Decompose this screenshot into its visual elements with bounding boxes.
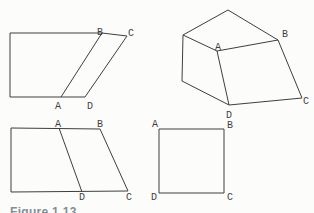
- vertex-label-d: D: [87, 101, 93, 112]
- bottom-left-diagonal-ad: [59, 128, 82, 192]
- vertex-label-b: B: [282, 29, 288, 40]
- top-left-diagonal-ab: [61, 33, 102, 97]
- vertex-label-c: C: [227, 192, 233, 203]
- solid-silhouette: [182, 10, 302, 105]
- top-left-outline: [10, 33, 127, 97]
- vertex-label-c: C: [303, 96, 309, 107]
- textbook-figure-panel: A B C D A B C D A B C D A B C: [0, 0, 314, 213]
- vertex-label-a: A: [152, 119, 158, 130]
- vertex-label-c: C: [126, 192, 132, 203]
- vertex-label-a: A: [55, 119, 61, 130]
- figures-canvas: A B C D A B C D A B C D A B C: [0, 0, 314, 213]
- square-outline: [159, 129, 224, 193]
- figure-top-left-parallelogram: A B C D: [10, 27, 134, 112]
- vertex-label-a: A: [215, 42, 221, 53]
- bottom-left-outline: [11, 128, 128, 192]
- solid-inner-edges: [183, 35, 278, 105]
- figure-bottom-left-parallelogram: A B C D: [11, 119, 132, 203]
- vertex-label-d: D: [79, 192, 85, 203]
- vertex-label-b: B: [97, 27, 103, 38]
- vertex-label-c: C: [128, 28, 134, 39]
- vertex-label-d: D: [151, 192, 157, 203]
- figure-3d-solid: A B C D: [182, 10, 309, 121]
- vertex-label-b: B: [227, 120, 233, 131]
- vertex-label-a: A: [55, 101, 61, 112]
- vertex-label-b: B: [97, 119, 103, 130]
- figure-caption: Figure 1.13: [10, 205, 77, 213]
- figure-square: A B C D: [151, 119, 233, 203]
